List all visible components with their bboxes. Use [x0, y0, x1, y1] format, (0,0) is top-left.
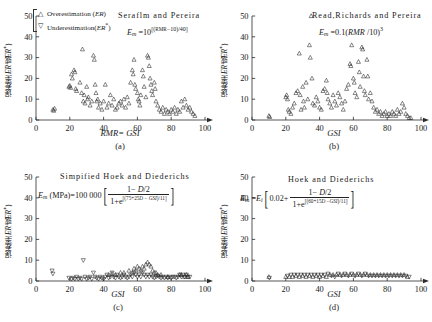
data-point: [80, 91, 84, 95]
svg-text:20: 20: [240, 74, 248, 83]
y-axis-label-c: 误差率(ER或ER*): [1, 183, 15, 281]
data-point: [122, 270, 126, 274]
data-point: [336, 91, 340, 95]
x-axis-label-a: RMR= GSI: [12, 128, 228, 138]
data-point: [78, 80, 82, 84]
data-point: [324, 78, 328, 82]
svg-text:0: 0: [28, 116, 32, 125]
data-point: [307, 43, 311, 47]
data-point: [325, 91, 329, 95]
data-point: [133, 82, 137, 86]
data-point: [156, 103, 160, 107]
data-point: [85, 85, 89, 89]
data-point: [383, 109, 387, 113]
data-point: [103, 82, 107, 86]
data-point: [334, 103, 338, 107]
panel-d: 01020304050020406080100 误差率(ER或ER*) Hoek…: [216, 161, 432, 322]
data-point: [97, 105, 101, 109]
bracket-right-icon: ]: [170, 187, 174, 204]
data-point: [333, 99, 337, 103]
data-point: [130, 275, 134, 279]
data-point: [127, 268, 131, 272]
svg-text:10: 10: [240, 95, 248, 104]
data-point: [173, 105, 177, 109]
data-point: [367, 97, 371, 101]
svg-text:50: 50: [240, 12, 248, 21]
data-point: [146, 260, 150, 264]
svg-text:30: 30: [24, 214, 32, 223]
data-point: [151, 268, 155, 272]
svg-text:0: 0: [244, 116, 248, 125]
data-point: [142, 85, 146, 89]
data-point: [127, 101, 131, 105]
data-point: [314, 95, 318, 99]
data-point: [331, 93, 335, 97]
data-point: [302, 105, 306, 109]
data-point: [88, 103, 92, 107]
data-point: [355, 95, 359, 99]
data-point: [131, 72, 135, 76]
panel-title-c: Simpified Hoek and Diederichs: [60, 172, 190, 181]
svg-text:40: 40: [24, 33, 32, 42]
panel-formula-b: Em =0.1(RMR /10)3: [319, 26, 383, 37]
data-point: [90, 99, 94, 103]
panel-title-a: Seraflm and Pereira: [118, 11, 200, 20]
panel-b: 01020304050020406080100 误差率(ER或ER*) Read…: [216, 0, 432, 161]
panel-caption-b: (b): [226, 141, 432, 151]
data-point: [129, 80, 133, 84]
data-point: [140, 68, 144, 72]
data-point: [341, 107, 345, 111]
data-point: [362, 74, 366, 78]
data-point: [107, 101, 111, 105]
svg-text:50: 50: [240, 173, 248, 182]
panel-caption-c: (c): [10, 302, 226, 312]
panel-formula-c: Em (MPa)=100 000[ 1− D/2 1+e[(75+25D − G…: [38, 185, 175, 207]
panel-caption-a: (a): [12, 141, 228, 151]
data-point: [323, 87, 327, 91]
data-point: [308, 55, 312, 59]
data-point: [343, 99, 347, 103]
bracket-left-icon: [: [264, 190, 268, 207]
data-point: [353, 91, 357, 95]
svg-text:0: 0: [244, 277, 248, 286]
svg-text:10: 10: [240, 256, 248, 265]
svg-text:10: 10: [24, 256, 32, 265]
data-point: [363, 93, 367, 97]
data-point: [352, 80, 356, 84]
panel-title-b: Read,Richards and Pereira: [312, 11, 422, 20]
data-point: [81, 99, 85, 103]
data-point: [302, 99, 306, 103]
data-point: [368, 91, 372, 95]
data-point: [94, 91, 98, 95]
data-point: [311, 101, 315, 105]
data-point: [152, 80, 156, 84]
data-point: [154, 99, 158, 103]
svg-text:50: 50: [24, 173, 32, 182]
svg-text:40: 40: [240, 33, 248, 42]
data-point: [358, 85, 362, 89]
bracket-left-icon: [: [103, 187, 107, 204]
y-axis-label-d: 误差率(ER或ER*): [217, 183, 231, 281]
data-point: [291, 105, 295, 109]
data-point: [395, 107, 399, 111]
data-point: [298, 93, 302, 97]
data-point: [328, 101, 332, 105]
data-point: [357, 70, 361, 74]
data-point: [141, 74, 145, 78]
data-point: [318, 105, 322, 109]
data-point: [102, 99, 106, 103]
data-point: [372, 105, 376, 109]
data-point: [316, 99, 320, 103]
data-point: [304, 80, 308, 84]
svg-text:30: 30: [240, 53, 248, 62]
data-point: [338, 95, 342, 99]
svg-text:20: 20: [240, 235, 248, 244]
data-point: [292, 101, 296, 105]
data-point: [296, 89, 300, 93]
panel-formula-a: Em =10[(RMR−10)/40]: [127, 26, 188, 37]
bracket-right-icon: ]: [351, 190, 355, 207]
data-point: [93, 82, 97, 86]
data-point: [297, 51, 301, 55]
data-point: [346, 82, 350, 86]
svg-text:30: 30: [24, 53, 32, 62]
